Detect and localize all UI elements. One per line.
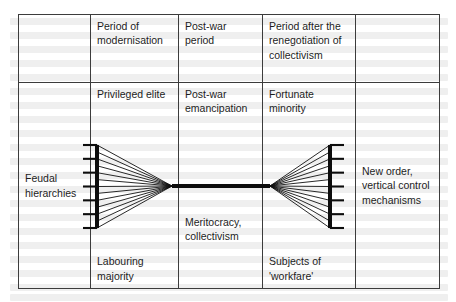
header-cell-period-of-modernisation: Period of modernisation <box>91 15 178 82</box>
body-cell-labouring-majority: Labouring majority <box>91 248 178 288</box>
body-cell-subjects-of-workfare: Subjects of 'workfare' <box>263 248 355 288</box>
header-cell-col5 <box>356 15 439 82</box>
right-fan-lines <box>270 145 330 228</box>
table-bottom-border <box>18 288 440 289</box>
body-cell-privileged-elite: Privileged elite <box>91 83 178 123</box>
header-cell-post-war-period: Post-war period <box>179 15 262 82</box>
left-fan-lines <box>97 145 172 228</box>
body-cell-new-order-vertical-control: New order, vertical control mechanisms <box>356 83 439 288</box>
body-cell-post-war-emancipation: Post-war emancipation <box>179 83 262 123</box>
social-stratification-diagram: Period of modernisation Post-war period … <box>0 0 456 302</box>
header-cell-col1 <box>19 15 90 82</box>
body-cell-feudal-hierarchies: Feudal hierarchies <box>19 83 90 288</box>
table-right-border <box>439 14 440 289</box>
body-cell-meritocracy-collectivism: Meritocracy, collectivism <box>179 211 262 251</box>
header-cell-period-after-renegotiation: Period after the renegotiation of collec… <box>263 15 355 82</box>
body-cell-fortunate-minority: Fortunate minority <box>263 83 355 123</box>
